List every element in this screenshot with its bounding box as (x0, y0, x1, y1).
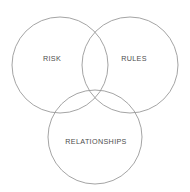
circle-risk[interactable] (12, 17, 108, 113)
venn-diagram: RISK RULES RELATIONSHIPS (0, 0, 190, 192)
label-relationships: RELATIONSHIPS (65, 137, 127, 146)
circle-rules[interactable] (82, 17, 178, 113)
label-risk: RISK (43, 54, 61, 63)
venn-diagram-canvas: RISK RULES RELATIONSHIPS (0, 0, 190, 192)
label-rules: RULES (121, 54, 147, 63)
